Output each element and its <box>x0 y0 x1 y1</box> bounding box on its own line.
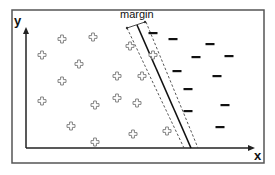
plus-point-icon <box>163 127 171 135</box>
minus-point-icon <box>184 88 193 90</box>
plus-point-icon <box>58 77 66 85</box>
y-axis-label: y <box>14 13 21 28</box>
y-axis-arrow-icon <box>23 27 29 34</box>
minus-point-icon <box>149 32 158 34</box>
hyperplane-lines <box>126 21 198 148</box>
plus-point-icon <box>91 101 99 109</box>
diagram-frame <box>12 10 264 163</box>
positive-class-points <box>38 33 171 146</box>
plus-point-icon <box>75 60 83 68</box>
margin-boundary-right <box>146 22 198 148</box>
minus-point-icon <box>206 43 215 45</box>
minus-point-icon <box>169 38 178 40</box>
plus-point-icon <box>58 35 66 43</box>
minus-point-icon <box>225 55 234 57</box>
x-axis-label: x <box>254 148 261 163</box>
minus-point-icon <box>221 104 230 106</box>
plus-point-icon <box>38 51 46 59</box>
minus-point-icon <box>173 70 182 72</box>
margin-arrow-right-icon <box>144 21 146 23</box>
minus-point-icon <box>192 56 201 58</box>
plus-point-icon <box>129 130 137 138</box>
minus-point-icon <box>184 110 193 112</box>
margin-width-indicator <box>127 22 145 28</box>
plus-point-icon <box>113 94 121 102</box>
plus-point-icon <box>133 99 141 107</box>
plus-point-icon <box>149 51 157 59</box>
plus-point-icon <box>126 42 134 50</box>
margin-label: margin <box>120 8 154 20</box>
axes <box>23 27 255 151</box>
svm-margin-diagram <box>0 0 275 175</box>
plus-point-icon <box>38 97 46 105</box>
plus-point-icon <box>138 72 146 80</box>
margin-arrow-left-icon <box>126 27 128 29</box>
minus-point-icon <box>216 126 225 128</box>
plus-point-icon <box>91 138 99 146</box>
minus-point-icon <box>213 75 222 77</box>
margin-boundary-left <box>127 28 184 148</box>
plus-point-icon <box>113 72 121 80</box>
plus-point-icon <box>67 122 75 130</box>
plus-point-icon <box>89 33 97 41</box>
